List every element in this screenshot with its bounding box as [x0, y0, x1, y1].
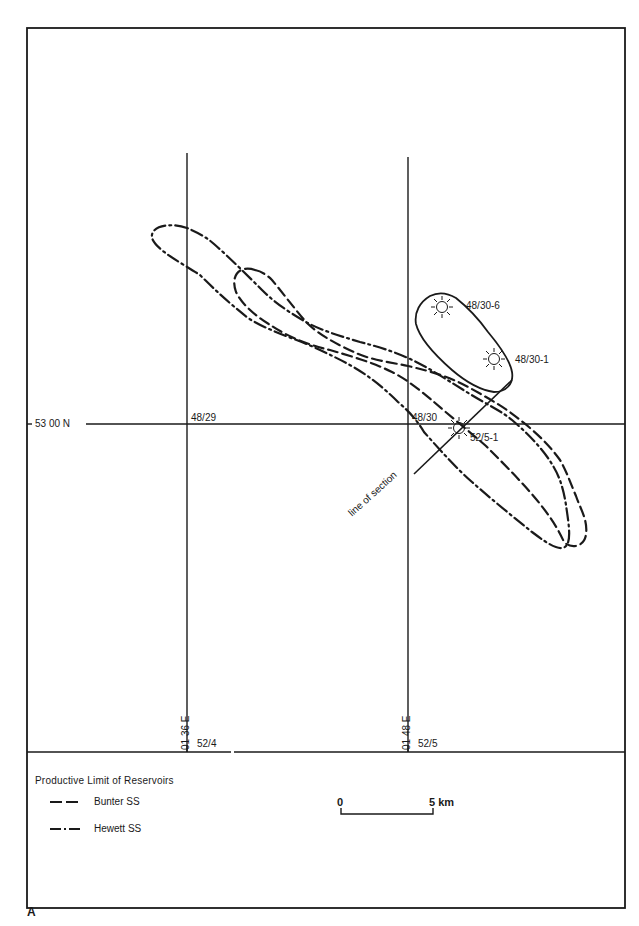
block-label-48-29: 48/29: [191, 412, 216, 423]
latitude-label: 53 00 N: [35, 418, 70, 429]
scale-end-label: 5 km: [429, 796, 454, 808]
well-label-52-5-1: 52/5-1: [470, 432, 498, 443]
gas-well-icon: [483, 348, 505, 370]
well-label-48-30-1: 48/30-1: [515, 354, 549, 365]
block-label-52-4: 52/4: [197, 738, 216, 749]
gas-show-well-icon: [448, 417, 470, 439]
dashed-line-icon: [50, 799, 80, 805]
scale-start-label: 0: [337, 796, 343, 808]
legend-label-bunter: Bunter SS: [94, 796, 140, 807]
line-of-section: [414, 380, 512, 474]
longitude-label-01-48-e: 01 48 E: [401, 716, 412, 750]
scale-bar: [341, 808, 433, 814]
block-label-48-30: 48/30: [412, 412, 437, 423]
legend-item-bunter: Bunter SS: [50, 796, 140, 807]
dash-dot-line-icon: [50, 826, 80, 832]
well-label-48-30-6: 48/30-6: [466, 300, 500, 311]
block-label-52-5: 52/5: [418, 738, 437, 749]
longitude-label-01-36-e: 01 36 E: [180, 716, 191, 750]
figure-letter: A: [27, 905, 36, 919]
reservoir-map: [0, 0, 639, 926]
legend-item-hewett: Hewett SS: [50, 823, 141, 834]
legend-title: Productive Limit of Reservoirs: [35, 775, 174, 786]
legend-label-hewett: Hewett SS: [94, 823, 141, 834]
gas-well-icon: [431, 296, 453, 318]
